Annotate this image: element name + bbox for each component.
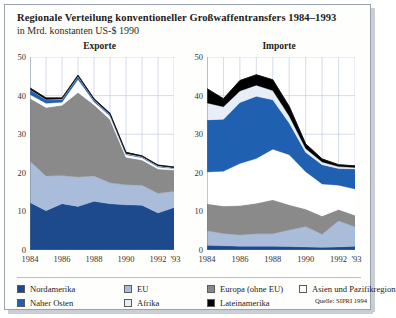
x-axis-tick-label: 1988	[261, 254, 285, 264]
x-axis-tick-label: 1984	[195, 254, 219, 264]
legend-item[interactable]: Nordamerika	[17, 282, 75, 295]
legend-label: Nordamerika	[30, 284, 75, 294]
legend-item[interactable]: Lateinamerika	[207, 296, 270, 309]
y-axis-tick-label: 50	[10, 52, 26, 62]
legend-item[interactable]: Asien und Pazifikregion	[299, 282, 396, 295]
legend-swatch-icon	[124, 285, 132, 293]
y-axis-tick-label: 50	[187, 52, 203, 62]
legend-swatch-icon	[207, 299, 215, 307]
source-note: Quelle: SIPRI 1994	[315, 297, 367, 304]
y-axis-tick-label: 10	[10, 206, 26, 216]
x-axis-tick-label: 1990	[114, 254, 138, 264]
legend-item[interactable]: Afrika	[124, 296, 159, 309]
x-axis-tick-label: 1988	[82, 254, 106, 264]
legend-swatch-icon	[124, 299, 132, 307]
area-chart-exporte	[30, 57, 174, 250]
x-axis-tick-label: 1990	[294, 254, 318, 264]
y-axis-tick-label: 10	[187, 206, 203, 216]
legend-label: Asien und Pazifikregion	[312, 284, 396, 294]
figure-subtitle: in Mrd. konstanten US-$ 1990	[17, 24, 361, 37]
legend-label: Europa (ohne EU)	[220, 284, 283, 294]
legend-item[interactable]: Naher Osten	[17, 296, 73, 309]
area-chart-importe	[207, 57, 355, 250]
legend-label: Lateinamerika	[220, 298, 270, 308]
x-axis-tick-label: 1984	[18, 254, 42, 264]
y-axis-tick-label: 40	[187, 91, 203, 101]
legend-swatch-icon	[207, 285, 215, 293]
panel-title-exporte: Exporte	[27, 41, 172, 51]
x-axis-tick-label: 1986	[50, 254, 74, 264]
legend-label: Afrika	[137, 298, 159, 308]
x-axis-tick-label: '93	[164, 254, 188, 264]
x-axis-tick-label: '93	[345, 254, 369, 264]
window-shadow-right	[371, 8, 375, 312]
legend-swatch-icon	[17, 299, 25, 307]
legend: NordamerikaEUEuropa (ohne EU)Asien und P…	[17, 282, 367, 312]
legend-label: EU	[137, 284, 148, 294]
y-axis-tick-label: 30	[10, 129, 26, 139]
figure-title: Regionale Verteilung konventioneller Gro…	[17, 11, 361, 24]
panel-title-importe: Importe	[205, 41, 353, 51]
legend-row-1: NordamerikaEUEuropa (ohne EU)Asien und P…	[17, 282, 367, 295]
legend-item[interactable]: EU	[124, 282, 148, 295]
legend-swatch-icon	[17, 285, 25, 293]
legend-label: Naher Osten	[30, 298, 73, 308]
y-axis-tick-label: 20	[187, 168, 203, 178]
y-axis-tick-label: 20	[10, 168, 26, 178]
legend-swatch-icon	[299, 285, 307, 293]
legend-divider	[17, 277, 361, 278]
figure-frame: Regionale Verteilung konventioneller Gro…	[4, 4, 371, 310]
legend-item[interactable]: Europa (ohne EU)	[207, 282, 283, 295]
y-axis-tick-label: 40	[10, 91, 26, 101]
x-axis-tick-label: 1986	[228, 254, 252, 264]
y-axis-tick-label: 30	[187, 129, 203, 139]
